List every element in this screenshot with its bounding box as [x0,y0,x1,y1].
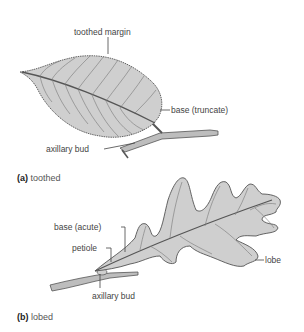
lobed-leaf [50,178,280,291]
toothed-leaf [20,37,218,158]
caption-b: (b) lobed [17,313,53,322]
caption-a: (a) toothed [17,174,61,183]
label-base-truncate: base (truncate) [171,106,228,115]
caption-a-letter: (a) [17,173,28,183]
label-base-acute: base (acute) [54,223,101,232]
caption-b-text: lobed [31,312,53,322]
label-toothed-margin: toothed margin [74,28,131,37]
label-lobe: lobe [265,256,281,265]
caption-b-letter: (b) [17,312,29,322]
label-axillary-bud-a: axillary bud [46,145,89,154]
label-axillary-bud-b: axillary bud [92,292,135,301]
label-petiole: petiole [72,244,97,253]
leaf-diagram [0,0,304,332]
caption-a-text: toothed [31,173,61,183]
